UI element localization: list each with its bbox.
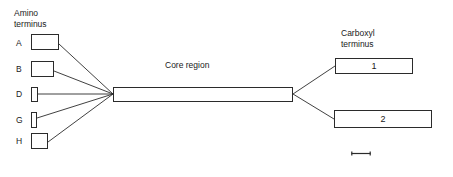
core-region-label: Core region <box>165 61 209 70</box>
connector-g-core <box>37 94 113 118</box>
domain-letter-d: D <box>16 90 22 99</box>
domain-letter-h: H <box>16 137 22 146</box>
domain-box-d <box>31 87 38 102</box>
carboxyl-domain-box-2: 2 <box>334 110 432 128</box>
domain-letter-b: B <box>16 65 22 74</box>
domain-box-h <box>31 133 48 149</box>
domain-box-a <box>31 34 59 50</box>
core-region-box <box>113 87 293 102</box>
carboxyl-domain-box-1: 1 <box>335 58 413 74</box>
connector-a-core <box>59 44 113 94</box>
connector-h-core <box>48 94 113 142</box>
amino-terminus-heading: Amino terminus <box>14 8 47 30</box>
carboxyl-terminus-heading: Carboxyl terminus <box>341 28 375 50</box>
domain-letter-g: G <box>16 116 23 125</box>
domain-letter-a: A <box>16 39 22 48</box>
connector-core-2 <box>293 94 334 119</box>
protein-domain-diagram: Amino terminus Carboxyl terminus Core re… <box>0 0 453 177</box>
scale-bar <box>351 151 371 156</box>
connector-core-1 <box>293 66 335 94</box>
domain-box-b <box>31 61 54 77</box>
domain-box-g <box>31 112 37 128</box>
connector-b-core <box>54 71 113 94</box>
